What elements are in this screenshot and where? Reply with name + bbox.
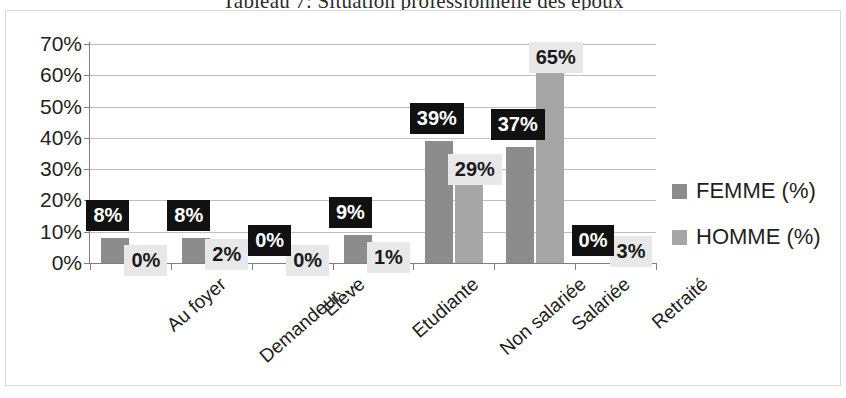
data-label-femme-5: 37%	[491, 109, 545, 140]
data-label-homme-6: 3%	[610, 236, 653, 267]
x-axis-tick-mark	[413, 263, 414, 270]
y-axis-tick-label: 60%	[12, 64, 82, 85]
data-label-homme-5: 65%	[529, 42, 583, 73]
y-axis-tick-label: 20%	[12, 189, 82, 210]
bar-homme-4	[455, 172, 483, 263]
plot-area: 8%0%8%2%0%0%9%1%39%29%37%65%0%3%	[90, 44, 656, 263]
y-axis-tick-label: 40%	[12, 127, 82, 148]
y-axis-tick-label: 70%	[12, 33, 82, 54]
legend-item-homme: HOMME (%)	[672, 214, 832, 260]
y-axis-tick-label: 50%	[12, 96, 82, 117]
x-axis-category-label: Au foyer	[164, 274, 230, 335]
legend-label-femme: FEMME (%)	[696, 180, 816, 202]
legend-swatch-femme-icon	[672, 184, 687, 199]
bar-femme-5	[506, 147, 534, 263]
y-axis-tick-mark	[84, 75, 90, 76]
x-axis-tick-mark	[252, 263, 253, 270]
x-axis-category-label: Etudiante	[409, 274, 482, 341]
data-label-femme-6: 0%	[572, 225, 615, 256]
data-label-homme-1: 2%	[205, 239, 248, 270]
x-axis-tick-mark	[575, 263, 576, 270]
y-axis-labels: 0%10%20%30%40%50%60%70%	[10, 11, 82, 398]
data-label-femme-0: 8%	[86, 200, 129, 231]
y-axis-tick-mark	[84, 169, 90, 170]
x-axis-tick-mark	[656, 263, 657, 270]
gridline	[90, 75, 656, 76]
legend-swatch-homme-icon	[672, 230, 687, 245]
legend-item-femme: FEMME (%)	[672, 168, 832, 214]
chart-legend: FEMME (%) HOMME (%)	[672, 168, 832, 260]
x-axis-category-label: Retraité	[648, 274, 711, 332]
gridline	[90, 169, 656, 170]
x-axis-tick-mark	[171, 263, 172, 270]
x-axis-tick-mark	[90, 263, 91, 270]
data-label-femme-1: 8%	[167, 200, 210, 231]
data-label-femme-3: 9%	[329, 197, 372, 228]
legend-label-homme: HOMME (%)	[696, 226, 821, 248]
y-axis-tick-mark	[84, 232, 90, 233]
data-label-femme-4: 39%	[410, 103, 464, 134]
y-axis-tick-mark	[84, 44, 90, 45]
x-axis-tick-mark	[333, 263, 334, 270]
y-axis-tick-mark	[84, 107, 90, 108]
x-axis-tick-mark	[494, 263, 495, 270]
y-axis-tick-mark	[84, 138, 90, 139]
y-axis-tick-label: 10%	[12, 221, 82, 242]
bar-homme-5	[536, 60, 564, 263]
gridline	[90, 107, 656, 108]
data-label-homme-3: 1%	[367, 242, 410, 273]
data-label-homme-4: 29%	[448, 154, 502, 185]
data-label-femme-2: 0%	[248, 225, 291, 256]
data-label-homme-0: 0%	[124, 245, 167, 276]
y-axis-tick-label: 30%	[12, 158, 82, 179]
y-axis-tick-label: 0%	[12, 252, 82, 273]
data-label-homme-2: 0%	[286, 245, 329, 276]
gridline	[90, 138, 656, 139]
